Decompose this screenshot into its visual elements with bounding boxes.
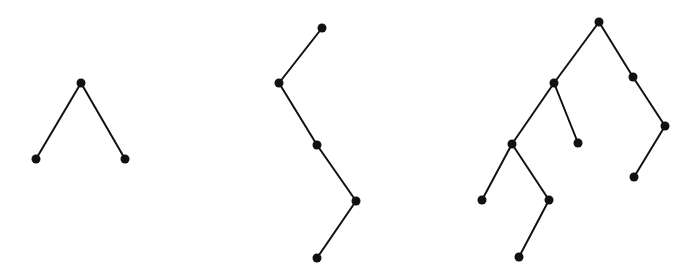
tree-node xyxy=(121,155,130,164)
tree-edge xyxy=(279,28,322,83)
tree-node xyxy=(515,253,524,262)
tree-node xyxy=(275,79,284,88)
tree-node xyxy=(661,122,670,131)
tree-edge xyxy=(633,77,665,126)
tree-3 xyxy=(478,18,670,262)
tree-node xyxy=(313,254,322,263)
tree-node xyxy=(478,196,487,205)
tree-node xyxy=(629,73,638,82)
tree-edge xyxy=(81,83,125,159)
tree-node xyxy=(313,141,322,150)
tree-node xyxy=(352,197,361,206)
tree-node xyxy=(595,18,604,27)
tree-node xyxy=(508,140,517,149)
tree-node xyxy=(574,139,583,148)
tree-edge xyxy=(512,144,549,200)
tree-node xyxy=(545,196,554,205)
tree-edge xyxy=(634,126,665,177)
tree-edge xyxy=(482,144,512,200)
tree-edge xyxy=(519,200,549,257)
tree-edge xyxy=(512,83,554,144)
tree-1 xyxy=(32,79,130,164)
tree-node xyxy=(318,24,327,33)
tree-node xyxy=(32,155,41,164)
tree-edge xyxy=(36,83,81,159)
tree-edge xyxy=(599,22,633,77)
tree-node xyxy=(630,173,639,182)
tree-diagram-canvas xyxy=(0,0,700,273)
tree-edge xyxy=(317,145,356,201)
tree-2 xyxy=(275,24,361,263)
tree-node xyxy=(550,79,559,88)
tree-edge xyxy=(317,201,356,258)
tree-node xyxy=(77,79,86,88)
tree-edge xyxy=(554,22,599,83)
tree-edge xyxy=(279,83,317,145)
tree-edge xyxy=(554,83,578,143)
